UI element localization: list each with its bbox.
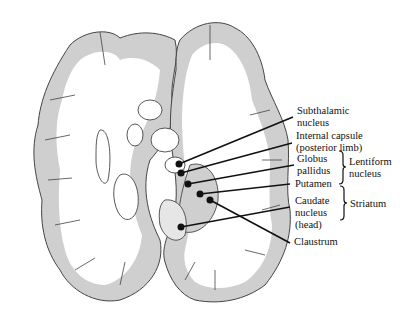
label-claustrum: Claustrum	[294, 236, 338, 248]
label-subthalamic-nucleus: Subthalamic nucleus	[297, 105, 350, 129]
label-caudate-nucleus: Caudate nucleus (head)	[295, 195, 329, 231]
label-internal-capsule: Internal capsule (posterior limb)	[296, 130, 363, 154]
label-globus-pallidus: Globus pallidus	[297, 153, 330, 177]
brain-section-illustration	[0, 0, 406, 332]
group-label-striatum: Striatum	[350, 198, 386, 210]
label-putamen: Putamen	[295, 178, 332, 190]
group-label-lentiform-nucleus: Lentiform nucleus	[349, 156, 392, 180]
